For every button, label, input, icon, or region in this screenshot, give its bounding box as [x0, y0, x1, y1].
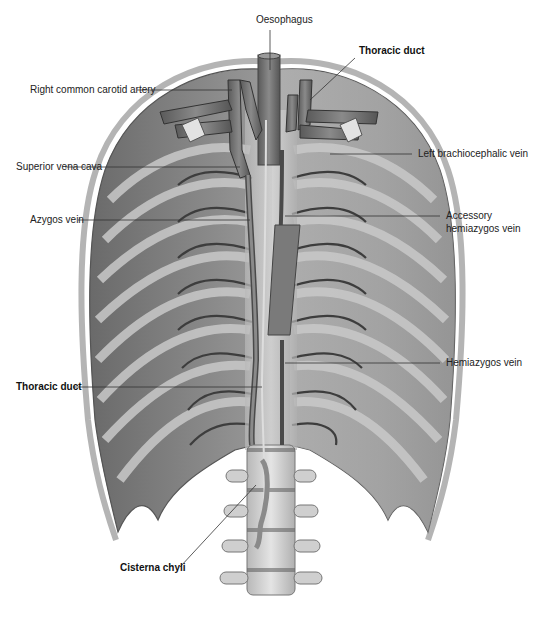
label-thoracic-duct-bottom: Thoracic duct: [16, 381, 82, 393]
label-accessory-hemiazygos-vein-line2: hemiazygos vein: [446, 223, 520, 235]
label-cisterna-chyli: Cisterna chyli: [120, 562, 186, 574]
label-left-brachiocephalic-vein: Left brachiocephalic vein: [418, 148, 528, 160]
label-oesophagus: Oesophagus: [256, 14, 313, 26]
label-right-common-carotid-artery: Right common carotid artery: [30, 84, 156, 96]
oesophagus-shape: [258, 55, 280, 165]
label-accessory-hemiazygos-vein-line1: Accessory: [446, 210, 492, 222]
anatomy-figure: Oesophagus Thoracic duct Right common ca…: [0, 0, 544, 622]
label-azygos-vein: Azygos vein: [30, 214, 84, 226]
label-thoracic-duct-top: Thoracic duct: [359, 45, 425, 57]
label-hemiazygos-vein: Hemiazygos vein: [446, 357, 522, 369]
label-superior-vena-cava: Superior vena cava: [16, 161, 102, 173]
